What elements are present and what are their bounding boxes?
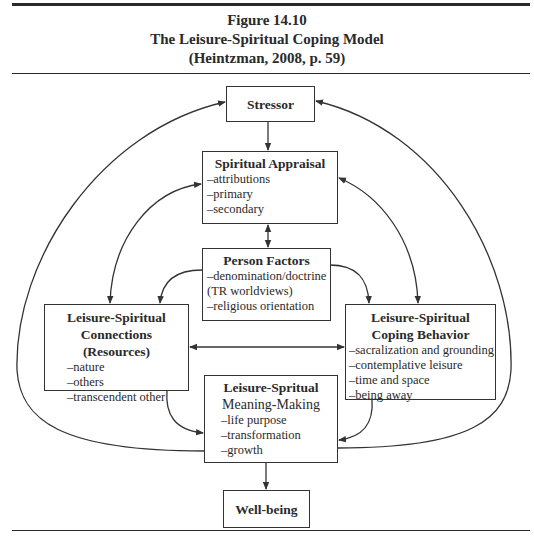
arrow-person-to-coping: [330, 265, 369, 303]
list-item: (TR worldviews): [207, 284, 326, 299]
list-item: –being away: [349, 388, 492, 403]
node-title: Stressor: [247, 96, 294, 113]
node-connections: Leisure-Spiritual Connections (Resources…: [44, 304, 189, 391]
list-item: –attributions: [207, 172, 333, 187]
node-title: Leisure-Spiritual: [349, 309, 492, 326]
list-item: –transformation: [209, 428, 333, 443]
node-stressor: Stressor: [226, 86, 315, 122]
list-item: –time and space: [349, 373, 492, 388]
node-title: Well-being: [235, 501, 297, 518]
list-item: –nature: [49, 360, 184, 375]
arrow-coping-to-meaning: [339, 399, 372, 440]
list-item: –transcendent other: [49, 390, 184, 405]
list-item: –life purpose: [209, 413, 333, 428]
arrow-appraisal-coping: [339, 178, 418, 303]
node-title: Spiritual Appraisal: [207, 155, 333, 172]
node-person-factors: Person Factors –denomination/doctrine (T…: [202, 248, 331, 321]
node-spiritual-appraisal: Spiritual Appraisal –attributions –prima…: [202, 151, 338, 224]
arrow-appraisal-connections: [110, 184, 201, 303]
bottom-rule: [12, 530, 530, 531]
list-item: –contemplative leisure: [349, 358, 492, 373]
list-item: –religious orientation: [207, 299, 326, 314]
node-well-being: Well-being: [223, 490, 310, 528]
arrow-person-to-connections: [160, 270, 202, 303]
list-item: –sacralization and grounding: [349, 343, 492, 358]
node-title: Leisure-Spiritual: [49, 309, 184, 326]
list-item: –others: [49, 375, 184, 390]
list-item: –denomination/doctrine: [207, 269, 326, 284]
node-meaning-making: Leisure-Spritual Meaning-Making –life pu…: [204, 375, 338, 463]
node-title: Coping Behavior: [349, 326, 492, 343]
node-title: Leisure-Spritual: [209, 379, 333, 396]
node-coping-behavior: Leisure-Spiritual Coping Behavior –sacra…: [345, 304, 496, 400]
node-title: Person Factors: [207, 252, 326, 269]
list-item: –primary: [207, 187, 333, 202]
node-title: Connections (Resources): [49, 326, 184, 360]
node-subtitle: Meaning-Making: [209, 396, 333, 413]
list-item: –secondary: [207, 202, 333, 217]
list-item: –growth: [209, 443, 333, 458]
